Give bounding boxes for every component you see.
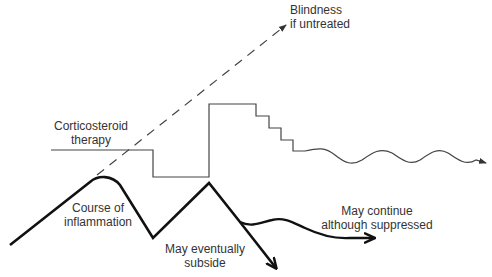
corticosteroid-therapy-label: Corticosteroid therapy	[46, 119, 136, 147]
untreated-dashed-arrow	[97, 25, 286, 175]
course-of-inflammation-label: Course of inflammation	[58, 201, 138, 229]
may-eventually-subside-label: May eventually subside	[160, 242, 250, 270]
may-continue-label: May continue although suppressed	[316, 204, 438, 232]
blindness-label: Blindness if untreated	[290, 3, 350, 31]
